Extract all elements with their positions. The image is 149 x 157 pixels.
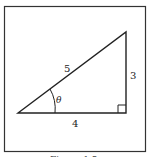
triangle-diagram: 5 3 4 θ Figure 1.5 bbox=[0, 0, 149, 157]
hypotenuse-label: 5 bbox=[64, 63, 70, 74]
right-triangle-figure: 5 3 4 θ Figure 1.5 bbox=[0, 0, 149, 157]
theta-label: θ bbox=[56, 95, 62, 105]
figure-caption: Figure 1.5 bbox=[50, 155, 98, 157]
adjacent-side-label: 4 bbox=[72, 118, 78, 129]
triangle bbox=[18, 32, 126, 113]
angle-arc bbox=[50, 89, 55, 113]
opposite-side-label: 3 bbox=[130, 70, 136, 81]
right-angle-marker bbox=[118, 105, 126, 113]
figure-frame bbox=[5, 7, 146, 152]
